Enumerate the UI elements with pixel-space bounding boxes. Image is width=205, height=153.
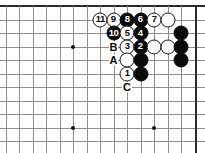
grid-line-vertical: [60, 6, 61, 153]
stone-white: [160, 12, 175, 27]
stone-move-number: 9: [111, 15, 116, 25]
grid-line-horizontal: [0, 5, 205, 7]
star-point: [71, 45, 75, 49]
grid-line-vertical: [154, 6, 155, 153]
stone-move-number: 6: [138, 15, 143, 25]
star-point: [71, 126, 75, 130]
grid-line-vertical: [19, 6, 20, 153]
stone-move-number: 2: [138, 42, 143, 52]
stone-move-number: 5: [125, 28, 130, 38]
grid-line-horizontal: [0, 101, 205, 102]
grid-line-vertical: [6, 6, 7, 153]
stone-move-number: 8: [125, 15, 130, 25]
stone-move-number: 10: [109, 28, 119, 38]
grid-line-horizontal: [0, 87, 205, 88]
point-label-c: C: [122, 82, 132, 93]
stone-move-number: 3: [125, 42, 130, 52]
grid-line-horizontal: [0, 114, 205, 115]
stone-move-number: 4: [138, 28, 143, 38]
grid-line-vertical: [73, 6, 74, 153]
stone-move-number: 11: [95, 15, 104, 25]
star-point: [152, 126, 156, 130]
stone-move-number: 7: [152, 15, 157, 25]
grid-line-vertical: [87, 6, 88, 153]
grid-line-vertical: [33, 6, 34, 153]
stone-black: [133, 66, 148, 81]
stone-black: [174, 53, 189, 68]
grid-line-horizontal: [0, 141, 205, 142]
grid-line-vertical: [195, 6, 197, 153]
grid-line-vertical: [46, 6, 47, 153]
grid-line-vertical: [168, 6, 169, 153]
go-board-diagram: 1198671054321 BAC: [0, 0, 205, 153]
point-label-a: A: [109, 55, 119, 66]
grid-line-horizontal: [0, 74, 205, 75]
grid-line-horizontal: [0, 128, 205, 129]
stone-move-number: 1: [125, 69, 130, 79]
point-label-b: B: [109, 41, 119, 52]
grid-line-vertical: [100, 6, 101, 153]
